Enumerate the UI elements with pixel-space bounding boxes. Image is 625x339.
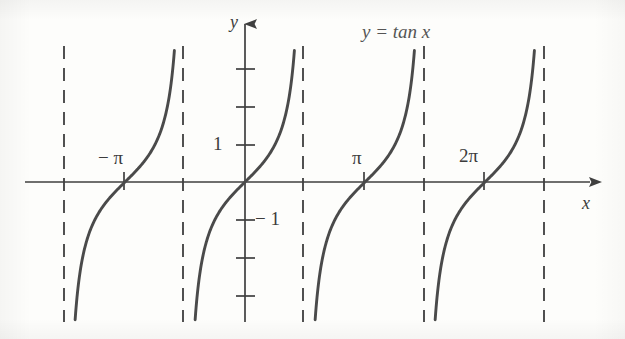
asymptote-group — [64, 46, 544, 322]
x-axis-label: x — [582, 194, 590, 212]
plot-canvas — [0, 0, 625, 339]
x-tick-group — [124, 172, 484, 190]
x-tick-label-neg-pi: − π — [98, 148, 123, 167]
tangent-function-figure: y = tan x y x 1 − 1 − π π 2π — [0, 0, 625, 339]
tangent-curve-group — [75, 51, 534, 320]
y-tick-label-neg-1: − 1 — [255, 209, 280, 228]
y-tick-label-1: 1 — [213, 134, 223, 153]
x-tick-label-pi: π — [352, 148, 362, 167]
y-axis-label: y — [230, 13, 238, 31]
chart-title: y = tan x — [362, 22, 430, 41]
x-tick-label-2pi: 2π — [459, 146, 478, 165]
